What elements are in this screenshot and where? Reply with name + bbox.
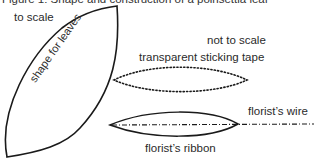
diagram-canvas <box>0 0 314 161</box>
florists-ribbon-label: florist’s ribbon <box>145 143 216 155</box>
florists-wire-label: florist’s wire <box>248 106 308 118</box>
tape-outline <box>114 67 247 91</box>
wire-line <box>112 124 314 125</box>
to-scale-label: to scale <box>14 12 54 24</box>
transparent-tape-label: transparent sticking tape <box>139 52 264 64</box>
not-to-scale-label: not to scale <box>207 35 266 47</box>
ribbon-outline <box>110 112 238 136</box>
